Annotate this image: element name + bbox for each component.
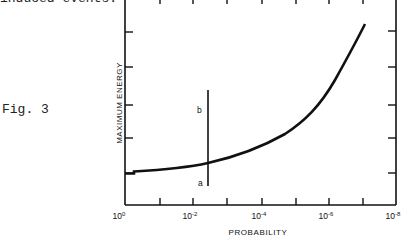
- top-ticks: [160, 0, 363, 4]
- y-axis-label: MAXIMUM ENERGY: [115, 62, 124, 144]
- y-ticks-left: [125, 32, 133, 173]
- chart: b a MAXIMUM ENERGY 100 10-2 10-4 10-6 10…: [0, 0, 405, 239]
- svg-text:10-4: 10-4: [252, 211, 267, 221]
- energy-curve: [125, 24, 365, 174]
- y-ticks-right: [388, 31, 396, 173]
- x-axis-label: PROBABILITY: [228, 228, 287, 237]
- x-tick-labels: 100 10-2 10-4 10-6 10-8: [113, 211, 401, 221]
- plot-frame: [125, 0, 396, 205]
- x-ticks: [160, 198, 363, 205]
- svg-text:10-8: 10-8: [386, 211, 401, 221]
- svg-text:10-6: 10-6: [319, 211, 334, 221]
- label-a: a: [198, 178, 203, 188]
- label-b: b: [197, 105, 202, 115]
- svg-text:10-2: 10-2: [183, 211, 198, 221]
- svg-text:100: 100: [113, 211, 126, 221]
